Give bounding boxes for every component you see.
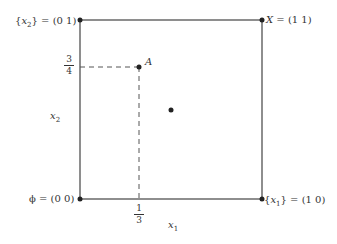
subscript: 2 bbox=[56, 116, 60, 124]
equals: = bbox=[290, 194, 298, 205]
center-point bbox=[169, 108, 174, 113]
equals: = bbox=[41, 15, 49, 26]
label-X-corner: X = (1 1) bbox=[266, 15, 312, 25]
axis-label-x2: x2 bbox=[50, 111, 60, 124]
corner-point-X bbox=[260, 18, 265, 23]
denominator: 3 bbox=[134, 216, 144, 225]
corner-point-x2 bbox=[78, 18, 83, 23]
axis-label-x1: x1 bbox=[168, 220, 178, 233]
equals: = bbox=[39, 193, 47, 204]
subscript: 1 bbox=[174, 225, 178, 233]
coord: (1 0) bbox=[302, 194, 326, 205]
corner-point-phi bbox=[78, 197, 83, 202]
coord: (0 1) bbox=[53, 15, 77, 26]
coord: (1 1) bbox=[288, 14, 312, 25]
label-point-A: A bbox=[145, 57, 152, 67]
label-x2-corner: {x2} = (0 1) bbox=[15, 16, 76, 29]
tick-y-fraction: 3 4 bbox=[64, 55, 74, 76]
set-symbol: X bbox=[266, 14, 273, 25]
numerator: 1 bbox=[134, 204, 144, 213]
set-symbol: ϕ bbox=[29, 193, 36, 204]
point-A bbox=[137, 65, 142, 70]
numerator: 3 bbox=[64, 55, 74, 64]
label-phi-corner: ϕ = (0 0) bbox=[29, 194, 74, 204]
equals: = bbox=[276, 14, 284, 25]
tick-x-fraction: 1 3 bbox=[134, 204, 144, 225]
coord: (0 0) bbox=[51, 193, 75, 204]
label-x1-corner: {x1} = (1 0) bbox=[264, 195, 325, 208]
denominator: 4 bbox=[64, 67, 74, 76]
